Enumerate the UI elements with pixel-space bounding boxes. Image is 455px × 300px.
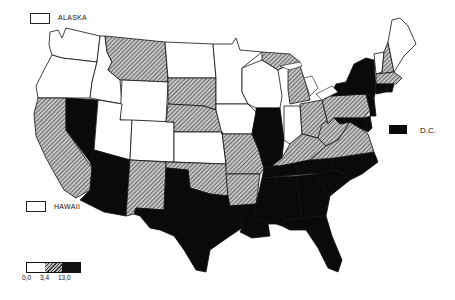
- legend-swatch-low: [27, 263, 45, 272]
- legend-tick-high: 13,0: [58, 274, 71, 281]
- alaska-label: ALASKA: [58, 14, 87, 21]
- state-kansas: [174, 132, 226, 164]
- legend-bar: [26, 262, 81, 273]
- state-wyoming: [120, 80, 168, 122]
- state-massachusetts: [376, 72, 402, 84]
- dc-label: D.C.: [420, 126, 436, 135]
- legend-tick-low: 0,0: [22, 274, 31, 281]
- legend-swatch-high: [62, 263, 80, 272]
- hawaii-label: HAWAII: [54, 203, 80, 210]
- hawaii-swatch: [26, 201, 46, 212]
- us-choropleth-map: [0, 0, 455, 300]
- state-oregon: [36, 55, 97, 98]
- state-north-dakota: [165, 42, 216, 78]
- state-maine: [388, 18, 416, 72]
- state-iowa: [216, 104, 256, 134]
- state-connecticut: [376, 84, 388, 94]
- legend-swatch-mid: [45, 263, 63, 272]
- alaska-swatch: [30, 13, 50, 24]
- legend-tick-mid: 3,4: [40, 274, 49, 281]
- state-new-mexico: [126, 160, 166, 216]
- dc-swatch: [389, 125, 407, 134]
- state-arkansas: [226, 174, 260, 206]
- state-florida: [282, 216, 342, 272]
- state-montana: [105, 36, 168, 82]
- state-colorado: [130, 120, 174, 162]
